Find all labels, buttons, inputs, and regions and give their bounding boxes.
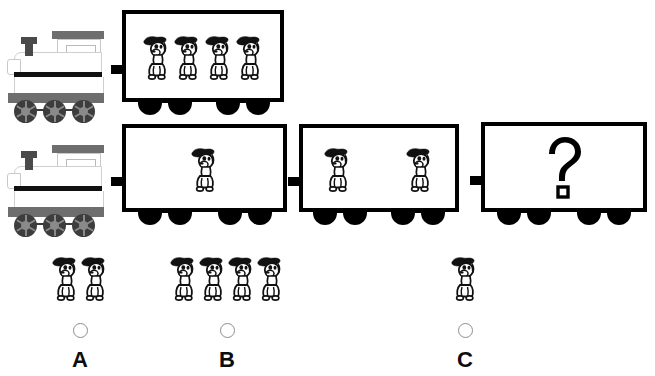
car-wheels	[481, 209, 647, 225]
car-cargo-row2-2	[299, 124, 459, 212]
dog-figure	[52, 254, 80, 301]
locomotive-chimney	[25, 156, 33, 170]
option-b-radio[interactable]	[220, 323, 235, 338]
option-c[interactable]: C	[390, 246, 540, 371]
car-row2-3	[481, 122, 647, 212]
car-row2-1	[122, 124, 287, 212]
locomotive-wheel	[72, 100, 95, 123]
dog-figure	[143, 33, 171, 80]
option-a-dogs	[5, 246, 155, 301]
dog-figure	[236, 33, 264, 80]
car-wheels	[299, 209, 459, 225]
option-c-radio[interactable]	[458, 323, 473, 338]
option-a[interactable]: A	[5, 246, 155, 371]
car-wheels	[122, 209, 287, 225]
car-row2-2	[299, 124, 459, 212]
locomotive-roof	[52, 31, 104, 39]
locomotive-row2	[4, 126, 122, 231]
dog-figure	[228, 254, 256, 301]
dog-figure	[170, 254, 198, 301]
dog-figure	[406, 145, 434, 192]
option-a-radio[interactable]	[73, 323, 88, 338]
locomotive-wheel	[14, 214, 37, 237]
locomotive-wheel	[43, 214, 66, 237]
option-b[interactable]: B	[152, 246, 302, 371]
dog-figure	[191, 145, 219, 192]
dog-figure	[81, 254, 109, 301]
locomotive-row1	[4, 12, 122, 117]
option-c-dogs	[390, 246, 540, 301]
locomotive-wheel	[14, 100, 37, 123]
locomotive-roof	[52, 145, 104, 153]
dog-figure	[257, 254, 285, 301]
locomotive-wheel	[43, 100, 66, 123]
question-mark-icon	[535, 134, 593, 200]
dog-figure	[324, 145, 352, 192]
option-b-dogs	[152, 246, 302, 301]
dog-figure	[199, 254, 227, 301]
locomotive-wheel	[72, 214, 95, 237]
dog-figure	[451, 254, 479, 301]
car-cargo-row2-1	[122, 124, 287, 212]
locomotive-chimney-cap	[21, 151, 37, 158]
option-b-label: B	[152, 349, 302, 371]
worksheet-canvas: A B C	[0, 0, 655, 376]
car-row1-1	[122, 10, 284, 102]
dog-figure	[205, 33, 233, 80]
locomotive-chimney	[25, 42, 33, 56]
locomotive-chimney-cap	[21, 37, 37, 44]
option-c-label: C	[390, 349, 540, 371]
option-a-label: A	[5, 349, 155, 371]
car-wheels	[122, 99, 284, 115]
car-cargo-row1-1	[122, 10, 284, 102]
car-cargo-row2-3	[481, 122, 647, 212]
dog-figure	[174, 33, 202, 80]
